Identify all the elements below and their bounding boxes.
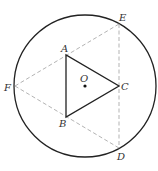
label-a: A bbox=[60, 43, 68, 54]
label-o: O bbox=[80, 73, 88, 84]
triangle-abc bbox=[66, 55, 119, 117]
label-e: E bbox=[118, 12, 127, 23]
center-point-o bbox=[83, 84, 86, 87]
label-d: D bbox=[116, 151, 125, 162]
label-b: B bbox=[58, 118, 66, 129]
diagram-canvas: A B C D E F O bbox=[0, 0, 158, 171]
label-f: F bbox=[3, 82, 12, 93]
label-c: C bbox=[121, 81, 129, 92]
geometry-figure: A B C D E F O bbox=[0, 0, 158, 171]
